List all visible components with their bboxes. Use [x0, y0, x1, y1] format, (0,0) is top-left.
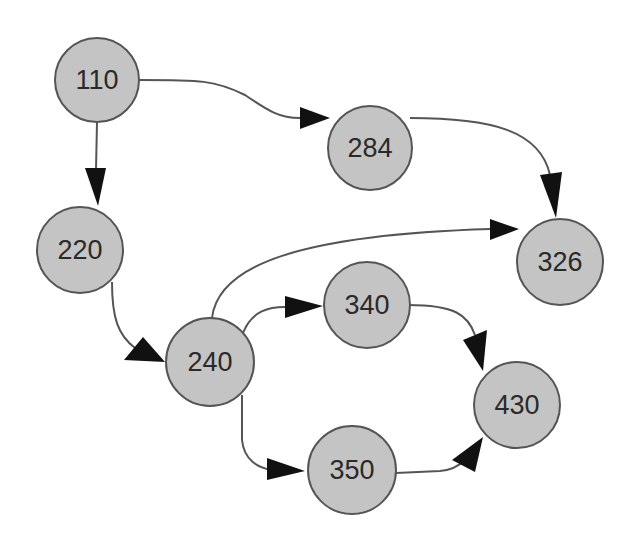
nodes: 110 284 220 326 340 240 430 350 [37, 38, 603, 514]
node-label: 430 [494, 390, 539, 420]
arrowhead-icon [85, 168, 106, 206]
arrowhead-icon [267, 458, 305, 480]
node-label: 284 [347, 133, 392, 163]
node-110[interactable]: 110 [55, 38, 139, 122]
node-284[interactable]: 284 [328, 106, 412, 190]
node-label: 326 [537, 247, 582, 277]
arrowhead-icon [285, 296, 323, 318]
edge-340-430 [408, 305, 487, 371]
edge-240-340 [243, 296, 323, 333]
node-label: 110 [75, 65, 118, 95]
arrowhead-icon [300, 107, 330, 129]
node-label: 340 [344, 290, 389, 320]
node-label: 220 [57, 235, 102, 265]
node-240[interactable]: 240 [166, 318, 254, 406]
arrowhead-icon [490, 219, 519, 240]
edge-240-350 [242, 395, 305, 480]
node-340[interactable]: 340 [324, 262, 410, 348]
node-350[interactable]: 350 [308, 426, 396, 514]
node-326[interactable]: 326 [517, 219, 603, 305]
node-220[interactable]: 220 [37, 207, 123, 293]
node-label: 350 [329, 455, 374, 485]
edge-110-284 [139, 80, 330, 129]
edge-220-240 [112, 282, 165, 362]
arrowhead-icon [463, 330, 487, 371]
edge-350-430 [396, 437, 483, 473]
arrowhead-icon [540, 172, 562, 218]
node-label: 240 [187, 347, 232, 377]
edge-284-326 [410, 118, 562, 218]
edge-110-220 [85, 122, 106, 206]
node-430[interactable]: 430 [474, 362, 560, 448]
graph-canvas: 110 284 220 326 340 240 430 350 [0, 0, 639, 551]
arrowhead-icon [124, 337, 165, 362]
